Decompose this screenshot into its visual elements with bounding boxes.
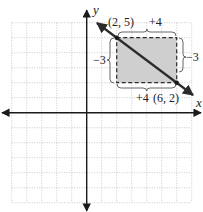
left-rise-label: −3 (93, 53, 106, 67)
point-b-label: (6, 2) (153, 91, 179, 105)
point-6-2 (175, 81, 179, 85)
top-brace (118, 29, 176, 36)
top-run-label: +4 (149, 15, 162, 29)
x-axis-label: x (195, 95, 202, 110)
right-rise-label: −3 (186, 50, 199, 64)
bottom-brace (117, 84, 176, 91)
linear-function-line (97, 23, 193, 95)
y-axis-label: y (91, 2, 99, 17)
right-brace (179, 38, 186, 72)
point-2-5 (115, 36, 119, 40)
point-a-label: (2, 5) (108, 15, 134, 29)
left-brace (107, 38, 114, 83)
coordinate-plane: y x (2, 5) +4 −3 −3 +4 (6, 2) (0, 0, 203, 212)
bottom-run-label: +4 (136, 91, 149, 105)
